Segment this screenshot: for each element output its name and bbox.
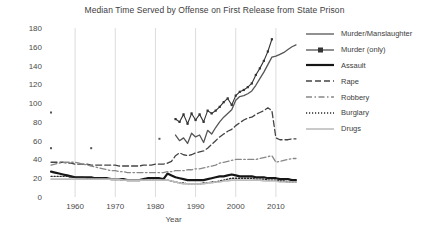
series-marker	[259, 67, 261, 69]
x-axis-tick-label: 1970	[106, 202, 124, 211]
legend-item[interactable]: Rape	[305, 73, 427, 89]
series-marker	[231, 104, 233, 106]
series-marker	[263, 60, 265, 62]
series-marker	[211, 112, 213, 114]
series-marker	[271, 38, 273, 40]
x-axis-tick-label: 2000	[227, 202, 245, 211]
legend-item[interactable]: Assault	[305, 58, 427, 74]
series-marker	[199, 113, 201, 115]
legend-item[interactable]: Burglary	[305, 105, 427, 121]
legend-swatch-icon	[305, 123, 335, 135]
series-marker	[255, 74, 257, 76]
x-axis-tick-label: 1990	[187, 202, 205, 211]
plot-svg	[47, 28, 300, 197]
stray-data-point	[90, 147, 92, 149]
y-axis-tick-label: 0	[38, 193, 42, 202]
legend-item-label: Assault	[341, 61, 366, 70]
series-marker	[182, 113, 184, 115]
legend-item[interactable]: Drugs	[305, 121, 427, 137]
y-axis-tick-label: 40	[33, 155, 42, 164]
series-marker	[243, 89, 245, 91]
chart-title: Median Time Served by Offense on First R…	[0, 5, 429, 15]
series-marker	[203, 121, 205, 123]
series-marker	[178, 121, 180, 123]
x-axis-tick-label: 2010	[267, 202, 285, 211]
series-line-drugs	[51, 179, 296, 184]
legend-item-label: Robbery	[341, 93, 369, 102]
legend-swatch-icon	[305, 75, 335, 87]
y-axis-tick-label: 100	[29, 99, 42, 108]
chart-legend: Murder/ManslaughterMurder (only)AssaultR…	[305, 26, 427, 137]
y-axis-tick-label: 80	[33, 117, 42, 126]
legend-swatch-icon	[305, 28, 335, 40]
plot-area: 0204060801001201401601801960197019801990…	[47, 28, 300, 197]
legend-item-label: Murder/Manslaughter	[341, 29, 412, 38]
series-marker	[207, 110, 209, 112]
x-axis-tick-label: 1960	[66, 202, 84, 211]
legend-item-label: Rape	[341, 77, 359, 86]
series-marker	[267, 50, 269, 52]
legend-item[interactable]: Murder/Manslaughter	[305, 26, 427, 42]
legend-item-label: Burglary	[341, 108, 369, 117]
series-marker	[247, 86, 249, 88]
series-marker	[215, 110, 217, 112]
legend-item-label: Murder (only)	[341, 45, 386, 54]
legend-swatch-icon	[305, 59, 335, 71]
series-line-rape	[51, 108, 296, 166]
legend-swatch-icon	[305, 44, 335, 56]
series-marker	[186, 123, 188, 125]
y-axis-tick-label: 20	[33, 174, 42, 183]
y-axis-tick-label: 160	[29, 42, 42, 51]
series-marker	[227, 97, 229, 99]
series-marker	[174, 118, 176, 120]
legend-swatch-icon	[305, 107, 335, 119]
stray-data-point	[50, 147, 52, 149]
y-axis-tick-label: 60	[33, 136, 42, 145]
stray-data-point	[50, 112, 52, 114]
series-marker	[251, 82, 253, 84]
series-marker	[190, 112, 192, 114]
series-marker	[194, 119, 196, 121]
y-axis-tick-label: 180	[29, 24, 42, 33]
series-marker	[223, 101, 225, 103]
legend-item-label: Drugs	[341, 124, 361, 133]
legend-item[interactable]: Murder (only)	[305, 42, 427, 58]
legend-swatch-icon	[305, 91, 335, 103]
y-axis-tick-label: 120	[29, 80, 42, 89]
series-marker	[235, 95, 237, 97]
stray-data-point	[158, 138, 160, 140]
legend-item[interactable]: Robbery	[305, 89, 427, 105]
x-axis-label: Year	[47, 215, 300, 224]
chart-container: Median Time Served by Offense on First R…	[0, 0, 429, 240]
series-marker	[219, 106, 221, 108]
series-marker	[239, 91, 241, 93]
x-axis-tick-label: 1980	[147, 202, 165, 211]
y-axis-tick-label: 140	[29, 61, 42, 70]
